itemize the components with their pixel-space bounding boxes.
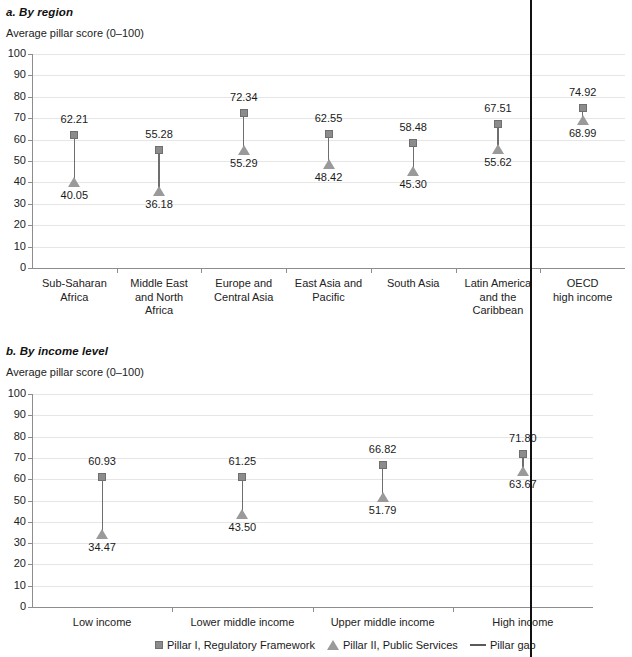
pillar-ii-value-label: 63.67 — [493, 478, 553, 490]
pillar-gap-line — [158, 150, 159, 191]
x-axis-tick-mark — [172, 607, 173, 612]
x-axis-category-line: Latin America — [465, 277, 532, 289]
pillar-i-square-marker — [240, 109, 248, 117]
panel-by-region: a. By region Average pillar score (0–100… — [0, 0, 632, 335]
y-axis-tick-label: 40 — [0, 516, 26, 527]
gridline — [32, 54, 625, 55]
chart-legend: Pillar I, Regulatory FrameworkPillar II,… — [155, 639, 536, 651]
x-axis-tick-mark — [313, 607, 314, 612]
x-axis-tick-mark — [201, 268, 202, 273]
pillar-i-square-marker — [379, 461, 387, 469]
legend-triangle-icon — [327, 640, 339, 650]
x-axis-category-line: Lower middle income — [190, 616, 294, 628]
x-axis-category-label: Lower middle income — [172, 616, 312, 630]
x-axis-tick-mark — [117, 268, 118, 273]
gridline — [32, 415, 593, 416]
x-axis-category-line: Central Asia — [214, 291, 273, 303]
x-axis-category-label: Sub-SaharanAfrica — [32, 277, 117, 304]
gridline — [32, 586, 593, 587]
x-axis-category-line: OECD — [567, 277, 599, 289]
pillar-i-square-marker — [409, 139, 417, 147]
x-axis-category-line: Upper middle income — [331, 616, 435, 628]
x-axis-category-line: Africa — [145, 304, 173, 316]
gridline — [32, 225, 625, 226]
pillar-ii-value-label: 51.79 — [353, 504, 413, 516]
pillar-i-square-marker — [155, 146, 163, 154]
pillar-i-square-marker — [519, 450, 527, 458]
pillar-gap-line — [102, 477, 103, 533]
y-axis-tick-label: 90 — [0, 69, 26, 80]
y-axis-tick-label: 0 — [0, 601, 26, 612]
x-axis-category-line: Sub-Saharan — [42, 277, 107, 289]
x-axis-category-label: Low income — [32, 616, 172, 630]
legend-square-icon — [155, 641, 163, 649]
pillar-ii-value-label: 40.05 — [44, 189, 104, 201]
x-axis-category-line: and North — [135, 291, 183, 303]
x-axis-line — [32, 268, 625, 269]
x-axis-category-line: and the — [480, 291, 517, 303]
x-axis-tick-mark — [286, 268, 287, 273]
pillar-ii-triangle-marker — [236, 509, 248, 519]
pillar-i-square-marker — [238, 473, 246, 481]
y-axis-tick-label: 0 — [0, 262, 26, 273]
x-axis-category-label: OECDhigh income — [540, 277, 625, 304]
pillar-ii-triangle-marker — [377, 492, 389, 502]
legend-line-icon — [470, 644, 486, 646]
legend-item[interactable]: Pillar I, Regulatory Framework — [155, 639, 315, 651]
y-axis-tick-label: 20 — [0, 558, 26, 569]
x-axis-category-label: High income — [453, 616, 593, 630]
pillar-gap-line — [74, 135, 75, 182]
x-axis-category-line: Europe and — [215, 277, 272, 289]
legend-item[interactable]: Pillar gap — [470, 639, 536, 651]
gridline — [32, 97, 625, 98]
pillar-ii-value-label: 43.50 — [212, 521, 272, 533]
pillar-ii-triangle-marker — [96, 529, 108, 539]
y-axis-tick-label: 60 — [0, 134, 26, 145]
legend-item-label: Pillar I, Regulatory Framework — [167, 639, 315, 651]
y-axis-tick-label: 20 — [0, 219, 26, 230]
panel-b-title: b. By income level — [6, 345, 108, 357]
pillar-i-value-label: 66.82 — [353, 443, 413, 455]
x-axis-tick-mark — [453, 607, 454, 612]
pillar-i-square-marker — [98, 473, 106, 481]
pillar-i-value-label: 61.25 — [212, 455, 272, 467]
pillar-i-value-label: 62.21 — [44, 113, 104, 125]
gridline — [32, 501, 593, 502]
x-axis-category-label: Europe andCentral Asia — [201, 277, 286, 304]
plot-area-by-income-level: 100908070605040302010060.9334.47Low inco… — [32, 394, 593, 607]
pillar-ii-triangle-marker — [323, 159, 335, 169]
pillar-ii-value-label: 45.30 — [383, 178, 443, 190]
x-axis-category-label: East Asia andPacific — [286, 277, 371, 304]
pillar-i-square-marker — [325, 130, 333, 138]
y-axis-tick-label: 90 — [0, 409, 26, 420]
y-axis-line — [32, 54, 33, 268]
pillar-i-square-marker — [70, 131, 78, 139]
pillar-i-value-label: 71.80 — [493, 432, 553, 444]
x-axis-category-line: South Asia — [387, 277, 440, 289]
y-axis-tick-label: 50 — [0, 155, 26, 166]
y-axis-tick-label: 70 — [0, 112, 26, 123]
pillar-i-value-label: 55.28 — [129, 128, 189, 140]
legend-item-label: Pillar II, Public Services — [343, 639, 458, 651]
gridline — [32, 75, 625, 76]
pillar-i-value-label: 74.92 — [553, 86, 613, 98]
plot-area-by-region: 100908070605040302010062.2140.05Sub-Saha… — [32, 54, 625, 268]
x-axis-category-line: high income — [553, 291, 612, 303]
pillar-i-value-label: 67.51 — [468, 102, 528, 114]
x-axis-category-line: Africa — [60, 291, 88, 303]
x-axis-category-line: Pacific — [312, 291, 344, 303]
pillar-ii-value-label: 48.42 — [299, 171, 359, 183]
pillar-i-square-marker — [579, 104, 587, 112]
legend-item[interactable]: Pillar II, Public Services — [327, 639, 458, 651]
y-axis-tick-label: 50 — [0, 495, 26, 506]
page-divider-line — [530, 0, 532, 657]
pillar-ii-triangle-marker — [153, 186, 165, 196]
pillar-ii-triangle-marker — [238, 145, 250, 155]
gridline — [32, 204, 625, 205]
x-axis-category-label: Upper middle income — [313, 616, 453, 630]
pillar-ii-triangle-marker — [492, 144, 504, 154]
y-axis-tick-label: 100 — [0, 48, 26, 59]
x-axis-category-line: East Asia and — [295, 277, 362, 289]
y-axis-line — [32, 394, 33, 607]
x-axis-category-line: Caribbean — [473, 304, 524, 316]
